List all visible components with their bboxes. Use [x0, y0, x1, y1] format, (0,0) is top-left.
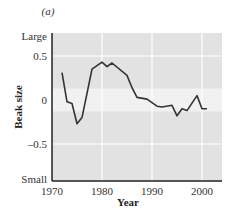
y-axis-ticks: Large0.50–0.5Small — [21, 30, 47, 185]
y-tick-label: Small — [21, 173, 47, 185]
y-tick-label: Large — [22, 30, 48, 42]
x-tick-label: 1990 — [141, 185, 164, 197]
x-axis-label: Year — [117, 196, 139, 208]
y-axis-label: Beak size — [12, 85, 24, 129]
y-tick-label: 0.5 — [33, 50, 47, 62]
y-tick-label: –0.5 — [27, 138, 48, 150]
plot-area — [52, 33, 222, 181]
x-tick-label: 1980 — [91, 185, 114, 197]
beak-size-chart: (a) Large0.50–0.5Small 1970198019902000 … — [0, 0, 234, 216]
x-tick-label: 1970 — [41, 185, 64, 197]
y-tick-label: 0 — [42, 94, 48, 106]
panel-label: (a) — [42, 5, 55, 18]
x-tick-label: 2000 — [191, 185, 214, 197]
zero-band — [52, 89, 222, 112]
